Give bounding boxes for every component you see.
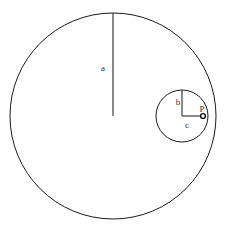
geometry-diagram: a b c P [0,0,225,234]
point-p-marker [201,114,206,119]
figure-canvas: a b c P [0,0,225,234]
label-p: P [199,104,204,114]
label-a: a [101,63,105,73]
label-c: c [185,120,189,130]
label-b: b [176,97,181,107]
